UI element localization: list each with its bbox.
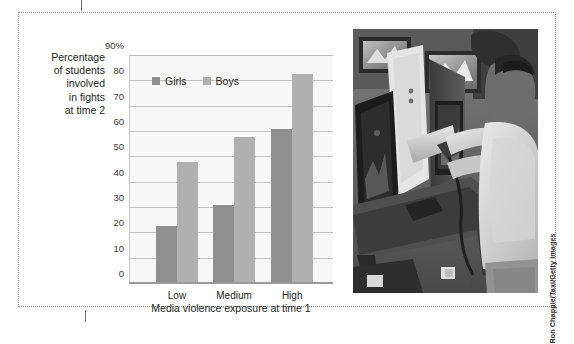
legend-swatch-icon [152, 77, 160, 85]
bar-medium-girls [213, 205, 234, 284]
photo-credit: Ron Chapple/Taxi/Getty Images [545, 29, 559, 293]
x-axis-line [129, 282, 333, 284]
bar-chart: Percentage of students involved in fight… [19, 13, 349, 308]
y-tick-label: 20 [113, 217, 124, 228]
legend-swatch-icon [203, 77, 211, 85]
legend-entry-boys: Boys [203, 75, 239, 87]
legend-label: Boys [216, 75, 239, 87]
x-tick-label: Low [168, 290, 186, 301]
y-tick-label: 0 [119, 268, 124, 279]
bar-high-boys [292, 74, 313, 284]
bars-layer [129, 56, 333, 284]
x-axis-title: Media violence exposure at time 1 [111, 302, 351, 314]
bar-group [271, 56, 313, 284]
photo-block: Ron Chapple/Taxi/Getty Images [353, 29, 557, 293]
y-tick-label: 90% [105, 40, 124, 51]
figure-frame: Percentage of students involved in fight… [18, 12, 556, 307]
y-tick-label: 50 [113, 141, 124, 152]
y-axis-title: Percentage of students involved in fight… [25, 51, 105, 117]
x-tick-label: Medium [216, 290, 252, 301]
bar-group [156, 56, 198, 284]
y-tick-label: 30 [113, 192, 124, 203]
bar-medium-boys [234, 137, 255, 284]
legend-entry-girls: Girls [152, 75, 187, 87]
legend-label: Girls [165, 75, 187, 87]
arcade-photo [353, 29, 538, 293]
bar-group [213, 56, 255, 284]
photo-credit-text: Ron Chapple/Taxi/Getty Images [548, 233, 557, 343]
crop-mark-top [81, 0, 82, 11]
bar-low-girls [156, 226, 177, 284]
crop-mark-bottom [85, 310, 86, 322]
y-tick-label: 40 [113, 166, 124, 177]
y-tick-label: 10 [113, 242, 124, 253]
bar-high-girls [271, 129, 292, 284]
x-tick-label: High [282, 290, 303, 301]
bar-low-boys [177, 162, 198, 284]
y-tick-label: 60 [113, 116, 124, 127]
chart-legend: GirlsBoys [152, 75, 239, 87]
y-tick-label: 70 [113, 90, 124, 101]
y-tick-label: 80 [113, 65, 124, 76]
plot-area: 0102030405060708090% LowMediumHigh [129, 55, 333, 284]
